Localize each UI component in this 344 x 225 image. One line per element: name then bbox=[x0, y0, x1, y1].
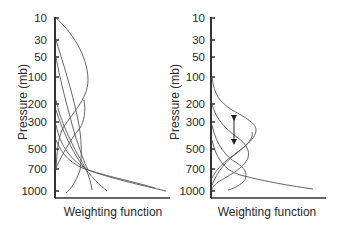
left-tick-700: 700 bbox=[7, 163, 47, 175]
left-y-axis-label: Pressure (mb) bbox=[16, 64, 30, 140]
left-x-axis-label: Weighting function bbox=[53, 205, 173, 219]
right-x-axis-label: Weighting function bbox=[207, 205, 327, 219]
right-chart: 10 30 50 100 200 300 500 700 1000 Pressu… bbox=[172, 0, 344, 225]
left-tick-30: 30 bbox=[7, 34, 47, 46]
right-y-axis-label: Pressure (mb) bbox=[168, 64, 182, 140]
left-tick-50: 50 bbox=[7, 51, 47, 63]
right-tick-30: 30 bbox=[165, 34, 205, 46]
right-tick-10: 10 bbox=[165, 12, 205, 24]
right-curves bbox=[212, 77, 313, 190]
right-tick-1000: 1000 bbox=[165, 185, 205, 197]
right-tick-500: 500 bbox=[165, 143, 205, 155]
right-tick-700: 700 bbox=[165, 163, 205, 175]
left-tick-500: 500 bbox=[7, 143, 47, 155]
right-tick-50: 50 bbox=[165, 51, 205, 63]
left-tick-10: 10 bbox=[7, 12, 47, 24]
left-tick-1000: 1000 bbox=[7, 185, 47, 197]
left-curves bbox=[56, 18, 166, 193]
left-chart: 10 30 50 100 200 300 500 700 1000 Pressu… bbox=[0, 0, 172, 225]
